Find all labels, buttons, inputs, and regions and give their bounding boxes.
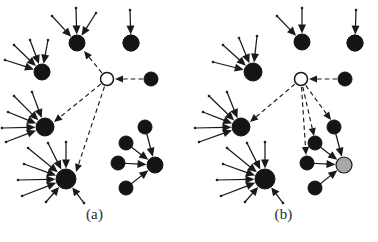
node-leaf-tip-b-4-6 bbox=[244, 201, 246, 203]
edge-solid-b-4-0 bbox=[227, 148, 257, 172]
edge-solid-b-0-1 bbox=[298, 8, 306, 34]
node-leaf-tip-b-0-1 bbox=[301, 7, 303, 9]
edge-solid-b-4-5 bbox=[221, 182, 255, 196]
edge-solid-b-3-4-shaft bbox=[199, 133, 225, 142]
edge-solid-a-2-4-shaft bbox=[6, 133, 30, 142]
node-star-leaf-a-2 bbox=[111, 156, 125, 170]
node-hub-a bbox=[101, 73, 114, 86]
node-leaf-tip-a-1-0 bbox=[13, 44, 15, 46]
node-cluster-center-b-cluster-upper-left bbox=[244, 63, 262, 81]
edge-solid-b-4-0-shaft bbox=[227, 148, 251, 168]
edge-solid-b-2-1-shaft bbox=[239, 38, 247, 57]
edge-dashed-in-a-0 bbox=[115, 75, 143, 82]
edge-solid-a-3-5 bbox=[22, 182, 56, 196]
edge-solid-a-0-1-head bbox=[73, 25, 81, 34]
edge-dashed-out-a-0-shaft bbox=[89, 57, 102, 73]
edge-solid-a-3-4 bbox=[18, 175, 56, 183]
edge-solid-a-2-2-shaft bbox=[8, 112, 30, 121]
edge-solid-b-0-1-head bbox=[298, 25, 306, 34]
edge-solid-a-0-2 bbox=[82, 13, 96, 36]
edge-dashed-in-b-0-head bbox=[309, 75, 317, 82]
node-cluster-center-b-cluster-mid-left bbox=[232, 118, 250, 136]
node-leaf-tip-a-1-3 bbox=[4, 59, 6, 61]
edge-solid-b-2-3-shaft bbox=[213, 62, 237, 68]
node-leaf-tip-a-0-0 bbox=[51, 15, 53, 17]
edge-dashed-out-b-2-head bbox=[309, 127, 316, 136]
panel-a: (a) bbox=[0, 0, 189, 242]
panel-a-caption: (a) bbox=[0, 206, 189, 223]
node-leaf-tip-a-3-4 bbox=[17, 179, 19, 181]
node-cluster-center-b-cluster-lower-left bbox=[255, 169, 275, 189]
edge-solid-b-4-7 bbox=[271, 187, 283, 203]
node-star-leaf-b-2 bbox=[300, 156, 314, 170]
node-leaf-tip-b-3-0 bbox=[208, 95, 210, 97]
edge-dashed-out-a-1-head bbox=[54, 114, 62, 122]
edge-solid-b-4-2-head bbox=[261, 160, 269, 169]
edge-solid-a-1-0-shaft bbox=[14, 45, 31, 61]
edge-solid-b-5-3-head bbox=[328, 170, 338, 179]
edge-solid-b-4-4-shaft bbox=[217, 179, 248, 180]
edge-dashed-out-a-2-head bbox=[75, 163, 82, 172]
edge-solid-b-2-0-shaft bbox=[223, 45, 241, 61]
edge-solid-a-3-5-shaft bbox=[22, 185, 50, 196]
node-leaf-tip-b-3-4 bbox=[198, 141, 200, 143]
edge-solid-a-2-1-shaft bbox=[32, 92, 39, 112]
node-leaf-tip-b-4-7 bbox=[282, 202, 284, 204]
panel-b-caption: (b) bbox=[189, 206, 378, 223]
node-leaf-tip-b-3-2 bbox=[202, 111, 204, 113]
edge-solid-a-5-0-head bbox=[126, 25, 134, 34]
edge-solid-a-1-2-head bbox=[41, 54, 49, 64]
edge-solid-a-4-1-head bbox=[139, 151, 149, 160]
edge-solid-b-5-0-head bbox=[336, 147, 344, 157]
edge-solid-a-3-4-shaft bbox=[18, 179, 49, 180]
edge-dashed-out-a-0 bbox=[84, 51, 102, 73]
edge-solid-b-3-2-shaft bbox=[203, 112, 226, 121]
edge-solid-a-4-3-head bbox=[139, 170, 149, 179]
edge-solid-b-4-2 bbox=[261, 142, 269, 169]
node-star-leaf-b-0 bbox=[327, 120, 341, 134]
edge-solid-b-3-4-head bbox=[222, 129, 232, 137]
node-leaf-tip-a-2-2 bbox=[7, 111, 9, 113]
edge-solid-a-0-2-head bbox=[82, 26, 90, 36]
edge-solid-a-4-0-head bbox=[147, 147, 155, 157]
node-leaf-tip-a-2-1 bbox=[31, 91, 33, 93]
node-cluster-center-b-cluster-right-star bbox=[336, 157, 352, 173]
edge-solid-a-0-0-shaft bbox=[52, 16, 66, 32]
edge-solid-b-4-3-shaft bbox=[223, 164, 249, 173]
edge-solid-a-3-0 bbox=[28, 148, 58, 172]
node-leaf-tip-a-5-0 bbox=[129, 9, 131, 11]
edge-solid-a-2-0-shaft bbox=[14, 96, 33, 115]
node-leaf-tip-a-3-6 bbox=[45, 201, 47, 203]
edge-solid-b-1-0-shaft bbox=[355, 10, 356, 28]
edge-solid-b-1-0 bbox=[352, 10, 360, 35]
edge-solid-b-3-0-shaft bbox=[209, 96, 229, 116]
node-leaf-tip-b-1-0 bbox=[355, 9, 357, 11]
node-star-leaf-a-0 bbox=[138, 120, 152, 134]
edge-solid-a-4-2-head bbox=[137, 160, 146, 168]
node-leaf-tip-b-2-3 bbox=[212, 61, 214, 63]
edge-dashed-out-b-0 bbox=[250, 84, 295, 122]
edge-solid-a-1-2 bbox=[41, 40, 49, 64]
node-leaf-tip-a-2-0 bbox=[13, 95, 15, 97]
node-cluster-center-a-cluster-mid-left bbox=[36, 118, 54, 136]
node-leaf-tip-b-4-1 bbox=[246, 142, 248, 144]
edge-solid-b-3-3-shaft bbox=[195, 127, 225, 128]
edge-solid-a-0-0 bbox=[52, 16, 71, 37]
node-leaf-tip-b-2-1 bbox=[238, 37, 240, 39]
node-leaf-tip-b-4-5 bbox=[220, 195, 222, 197]
node-cluster-center-a-cluster-right-star bbox=[147, 157, 163, 173]
node-leaf-tip-b-4-3 bbox=[222, 163, 224, 165]
edge-dashed-out-a-0-head bbox=[84, 51, 92, 59]
node-leaf-tip-a-3-0 bbox=[27, 147, 29, 149]
edge-solid-a-3-7-head bbox=[72, 187, 80, 196]
node-star-leaf-a-1 bbox=[119, 136, 133, 150]
node-leaf-tip-b-3-1 bbox=[226, 91, 228, 93]
edge-solid-a-3-6-shaft bbox=[46, 192, 55, 202]
edge-dashed-out-b-1 bbox=[306, 85, 331, 120]
edge-solid-a-2-3-shaft bbox=[2, 127, 29, 128]
edge-solid-a-1-3-shaft bbox=[5, 60, 27, 67]
node-leaf-tip-a-0-2 bbox=[95, 12, 97, 14]
edge-solid-a-3-2-head bbox=[62, 160, 70, 169]
node-dashed-source-a-0 bbox=[144, 72, 158, 86]
edge-solid-b-4-1-shaft bbox=[247, 143, 257, 163]
